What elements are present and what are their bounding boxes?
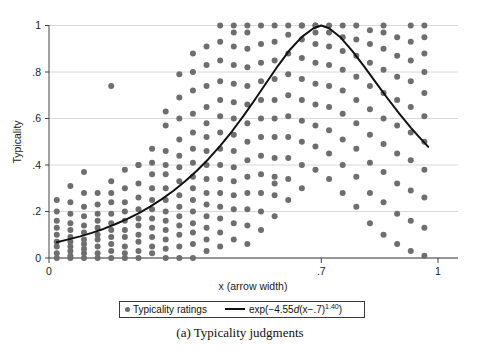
scatter-point: [258, 209, 264, 215]
scatter-point: [204, 248, 210, 254]
scatter-point: [244, 83, 250, 89]
scatter-point: [408, 57, 414, 63]
scatter-point: [367, 106, 373, 112]
scatter-point: [258, 171, 264, 177]
legend-curve-mid: (x−.7): [299, 305, 325, 316]
scatter-point: [299, 97, 305, 103]
scatter-point: [135, 162, 141, 168]
scatter-point: [353, 23, 359, 29]
scatter-point: [299, 23, 305, 29]
scatter-point: [67, 199, 73, 205]
scatter-point: [149, 250, 155, 256]
scatter-point: [421, 195, 427, 201]
scatter-point: [244, 222, 250, 228]
scatter-point: [204, 202, 210, 208]
scatter-point: [163, 185, 169, 191]
scatter-point: [231, 220, 237, 226]
scatter-point: [408, 104, 414, 110]
scatter-point: [163, 171, 169, 177]
scatter-point: [312, 143, 318, 149]
scatter-point: [258, 78, 264, 84]
scatter-point: [217, 113, 223, 119]
scatter-point: [81, 190, 87, 196]
figure-panel: 0.2.4.6.81 0.71 Typicality x (arrow widt…: [0, 0, 480, 351]
scatter-point: [95, 218, 101, 224]
scatter-point: [217, 215, 223, 221]
scatter-point: [394, 150, 400, 156]
scatter-point: [176, 71, 182, 77]
scatter-point: [190, 209, 196, 215]
scatter-point: [54, 209, 60, 215]
scatter-point: [272, 76, 278, 82]
scatter-point: [122, 185, 128, 191]
scatter-point: [231, 23, 237, 29]
x-axis-title: x (arrow width): [219, 280, 288, 292]
scatter-point: [340, 88, 346, 94]
scatter-point: [272, 213, 278, 219]
scatter-point: [394, 181, 400, 187]
scatter-point: [244, 157, 250, 163]
scatter-point: [54, 250, 60, 256]
scatter-point: [421, 50, 427, 56]
scatter-point: [54, 232, 60, 238]
y-tick-label: .4: [32, 159, 41, 171]
scatter-point: [67, 183, 73, 189]
scatter-point: [326, 127, 332, 133]
scatter-point: [217, 190, 223, 196]
scatter-point: [272, 192, 278, 198]
scatter-point: [258, 41, 264, 47]
scatter-point: [176, 222, 182, 228]
scatter-point: [176, 243, 182, 249]
legend-curve-suffix: ): [339, 305, 342, 316]
scatter-point: [421, 23, 427, 29]
scatter-point: [340, 111, 346, 117]
scatter-point: [340, 162, 346, 168]
scatter-point: [108, 241, 114, 247]
legend-entry-scatter: Typicality ratings: [125, 305, 207, 315]
x-tick-label: .7: [317, 265, 326, 277]
scatter-point: [285, 155, 291, 161]
scatter-point: [272, 116, 278, 122]
scatter-point: [299, 55, 305, 61]
scatter-point: [231, 62, 237, 68]
scatter-point: [326, 104, 332, 110]
scatter-point: [272, 155, 278, 161]
scatter-point: [176, 95, 182, 101]
scatter-point: [272, 23, 278, 29]
scatter-point: [408, 248, 414, 254]
scatter-point: [108, 248, 114, 254]
scatter-point: [272, 174, 278, 180]
scatter-point: [204, 62, 210, 68]
scatter-point: [135, 232, 141, 238]
scatter-point: [217, 57, 223, 63]
scatter-point: [312, 29, 318, 35]
scatter-point: [231, 81, 237, 87]
scatter-point: [108, 227, 114, 233]
legend-marker-dot-icon: [125, 307, 130, 312]
scatter-point: [258, 227, 264, 233]
scatter-point: [217, 23, 223, 29]
scatter-point: [204, 134, 210, 140]
scatter-point: [285, 92, 291, 98]
scatter-point: [81, 222, 87, 228]
legend-entry-curve: exp(−4.55d(x−.7)1.40): [225, 303, 342, 315]
scatter-point: [176, 255, 182, 261]
scatter-point: [285, 23, 291, 29]
scatter-point: [108, 255, 114, 261]
scatter-point: [353, 74, 359, 80]
scatter-point: [244, 46, 250, 52]
scatter-point: [176, 213, 182, 219]
scatter-point: [204, 190, 210, 196]
scatter-point: [285, 197, 291, 203]
scatter-point: [95, 190, 101, 196]
scatter-point: [231, 29, 237, 35]
scatter-point: [231, 236, 237, 242]
scatter-point: [381, 29, 387, 35]
scatter-point: [176, 232, 182, 238]
scatter-point: [163, 236, 169, 242]
scatter-point: [421, 113, 427, 119]
scatter-point: [135, 215, 141, 221]
scatter-point: [204, 213, 210, 219]
scatter-point: [244, 29, 250, 35]
scatter-point: [122, 199, 128, 205]
